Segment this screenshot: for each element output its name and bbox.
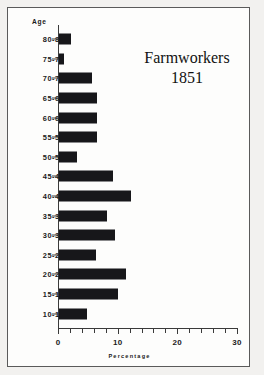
bar-row: 55-59 xyxy=(8,128,251,148)
bar xyxy=(59,73,92,84)
y-axis-tick xyxy=(52,235,58,236)
bar xyxy=(59,171,113,182)
y-axis-tick xyxy=(52,58,58,59)
bar-row: 60-64 xyxy=(8,108,251,128)
x-axis-major-tick xyxy=(237,328,238,334)
y-axis-tick xyxy=(52,274,58,275)
bar-row: 80-84 xyxy=(8,30,251,50)
bar xyxy=(59,269,126,280)
bar xyxy=(59,132,97,143)
bar-row: 35-39 xyxy=(8,206,251,226)
bar-row: 30-34 xyxy=(8,226,251,246)
x-axis-line xyxy=(58,328,237,329)
bar xyxy=(59,151,77,162)
y-axis-tick xyxy=(52,215,58,216)
bar xyxy=(59,210,107,221)
x-axis-minor-tick xyxy=(142,328,143,333)
y-axis-tick xyxy=(52,78,58,79)
bar xyxy=(59,112,97,123)
x-axis-minor-tick xyxy=(165,328,166,333)
x-axis-minor-tick xyxy=(82,328,83,333)
bar xyxy=(59,289,118,300)
bar xyxy=(59,191,131,202)
x-axis-major-tick xyxy=(118,328,119,334)
x-axis-minor-tick xyxy=(189,328,190,333)
plot-area: 80-8475-7970-7465-6960-6455-5950-5445-49… xyxy=(8,8,249,366)
x-axis-minor-tick xyxy=(94,328,95,333)
bar-row: 40-44 xyxy=(8,186,251,206)
x-axis-minor-tick xyxy=(153,328,154,333)
x-axis-minor-tick xyxy=(213,328,214,333)
bar-row: 10-14 xyxy=(8,304,251,324)
x-axis-major-tick xyxy=(58,328,59,334)
y-axis-tick xyxy=(52,313,58,314)
chart-figure: Farmworkers 1851 Age 80-8475-7970-7465-6… xyxy=(7,7,250,367)
bar xyxy=(59,93,97,104)
x-axis-tick-label: 10 xyxy=(113,338,123,347)
x-axis-minor-tick xyxy=(106,328,107,333)
bar xyxy=(59,308,87,319)
bar-row: 45-49 xyxy=(8,167,251,187)
x-axis-tick-label: 0 xyxy=(56,338,61,347)
x-axis-minor-tick xyxy=(225,328,226,333)
y-axis-tick xyxy=(52,294,58,295)
y-axis-tick xyxy=(52,156,58,157)
x-axis-tick-label: 20 xyxy=(173,338,183,347)
x-axis-minor-tick xyxy=(70,328,71,333)
bar xyxy=(59,53,64,64)
y-axis-tick xyxy=(52,176,58,177)
x-axis-major-tick xyxy=(177,328,178,334)
y-axis-tick xyxy=(52,196,58,197)
bar-row: 50-54 xyxy=(8,147,251,167)
y-axis-tick xyxy=(52,137,58,138)
bar-row: 75-79 xyxy=(8,49,251,69)
bar-row: 70-74 xyxy=(8,69,251,89)
y-axis-tick xyxy=(52,254,58,255)
bar xyxy=(59,34,71,45)
y-axis-tick xyxy=(52,98,58,99)
x-axis-tick-label: 30 xyxy=(232,338,242,347)
bar-row: 25-29 xyxy=(8,245,251,265)
x-axis-minor-tick xyxy=(130,328,131,333)
bar-row: 15-19 xyxy=(8,284,251,304)
bar xyxy=(59,230,115,241)
y-axis-tick xyxy=(52,39,58,40)
bar xyxy=(59,249,96,260)
bar-row: 20-24 xyxy=(8,265,251,285)
x-axis-minor-tick xyxy=(201,328,202,333)
bar-row: 65-69 xyxy=(8,88,251,108)
x-axis-title: Percentage xyxy=(8,353,251,359)
y-axis-tick xyxy=(52,117,58,118)
